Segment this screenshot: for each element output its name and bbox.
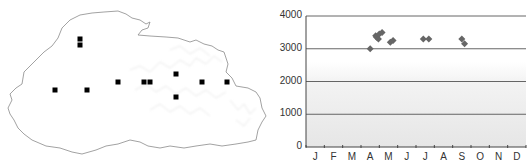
x-tick-label: J [308, 151, 322, 162]
occurrence-marker [116, 80, 121, 85]
x-tick-label: N [492, 151, 506, 162]
y-tick-label: 0 [272, 140, 302, 151]
y-tick-label: 3000 [272, 42, 302, 53]
x-tick-label: F [327, 151, 341, 162]
x-tick-label: S [455, 151, 469, 162]
occurrence-marker [85, 88, 90, 93]
occurrence-marker [148, 80, 153, 85]
x-tick-label: M [382, 151, 396, 162]
distribution-map [0, 0, 270, 165]
elevation-by-month-chart: 01000200030004000 JFMAMJJASOND [270, 0, 532, 165]
occurrence-marker [200, 80, 205, 85]
occurrence-marker [53, 88, 58, 93]
occurrence-marker [174, 95, 179, 100]
x-tick-label: D [510, 151, 524, 162]
country-outline-map [0, 0, 270, 165]
occurrence-marker [225, 80, 230, 85]
occurrence-marker [78, 37, 83, 42]
y-tick-label: 4000 [272, 9, 302, 20]
x-tick-label: J [400, 151, 414, 162]
x-tick-label: J [418, 151, 432, 162]
occurrence-marker [78, 43, 83, 48]
occurrence-marker [174, 72, 179, 77]
occurrence-marker [142, 80, 147, 85]
y-tick-label: 2000 [272, 75, 302, 86]
y-tick-label: 1000 [272, 107, 302, 118]
x-tick-label: A [437, 151, 451, 162]
x-tick-label: A [363, 151, 377, 162]
x-tick-label: M [345, 151, 359, 162]
x-tick-label: O [473, 151, 487, 162]
